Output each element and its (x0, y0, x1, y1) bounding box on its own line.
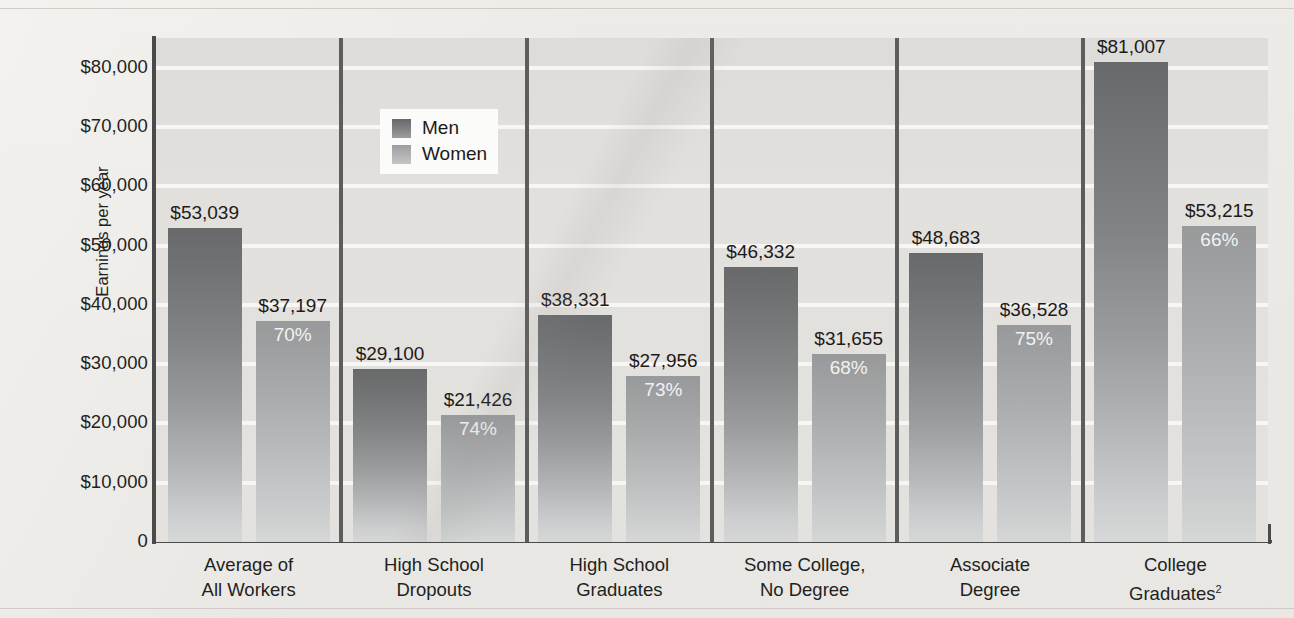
y-tick-label: $10,000 (80, 471, 148, 493)
group-separator (895, 38, 899, 542)
group-separator (710, 38, 714, 542)
bar-percent-label-women: 68% (812, 357, 886, 379)
x-category-label: High SchoolDropouts (341, 552, 526, 602)
x-category-label: Some College,No Degree (712, 552, 897, 602)
bar-men (909, 253, 983, 542)
bar-percent-label-women: 73% (626, 379, 700, 401)
legend-label-women: Women (422, 143, 487, 165)
bar-value-label-men: $53,039 (138, 202, 272, 224)
legend-swatch-men-icon (392, 119, 411, 138)
bar-value-label-women: $36,528 (967, 299, 1101, 321)
y-tick-label: $50,000 (80, 234, 148, 256)
chart-page: Earnings per year 0$10,000$20,000$30,000… (0, 0, 1294, 618)
bar-value-label-women: $27,956 (596, 350, 730, 372)
y-tick-label: 0 (138, 530, 148, 552)
legend-item-women[interactable]: Women (392, 141, 488, 167)
bar-value-label-men: $38,331 (508, 289, 642, 311)
y-tick-label: $30,000 (80, 352, 148, 374)
bar-value-label-men: $48,683 (879, 227, 1013, 249)
bar-men (538, 315, 612, 542)
group-separator (1081, 38, 1085, 542)
y-tick-label: $20,000 (80, 411, 148, 433)
bar-percent-label-women: 66% (1182, 229, 1256, 251)
y-tick-label: $80,000 (80, 56, 148, 78)
bar-value-label-women: $21,426 (411, 389, 545, 411)
page-bottom-rule (0, 608, 1294, 609)
bar-women (812, 354, 886, 542)
x-category-label: Average ofAll Workers (156, 552, 341, 602)
bar-value-label-men: $81,007 (1064, 36, 1198, 58)
bar-value-label-men: $29,100 (323, 343, 457, 365)
legend-swatch-women-icon (392, 145, 411, 164)
bar-percent-label-women: 70% (256, 324, 330, 346)
bar-value-label-women: $53,215 (1152, 200, 1286, 222)
y-tick-label: $40,000 (80, 293, 148, 315)
plot-area: $53,039$37,19770%$29,100$21,42674%$38,33… (156, 38, 1268, 542)
x-category-label: AssociateDegree (897, 552, 1082, 602)
x-category-label: High SchoolGraduates (527, 552, 712, 602)
legend-item-men[interactable]: Men (392, 115, 488, 141)
chart-legend: Men Women (380, 109, 498, 174)
footnote-marker: 2 (1215, 583, 1221, 595)
group-separator (339, 38, 343, 542)
bar-percent-label-women: 75% (997, 328, 1071, 350)
y-tick-label: $60,000 (80, 174, 148, 196)
bar-women (256, 321, 330, 542)
bar-value-label-women: $37,197 (226, 295, 360, 317)
bar-women (1182, 226, 1256, 542)
legend-label-men: Men (422, 117, 459, 139)
page-top-rule (0, 8, 1294, 9)
bar-percent-label-women: 74% (441, 418, 515, 440)
bar-men (168, 228, 242, 542)
bar-men (724, 267, 798, 542)
x-axis-end-tick (1268, 524, 1271, 544)
bar-value-label-women: $31,655 (782, 328, 916, 350)
x-category-label: CollegeGraduates2 (1083, 552, 1268, 606)
bar-value-label-men: $46,332 (694, 241, 828, 263)
bar-men (1094, 62, 1168, 542)
bar-women (997, 325, 1071, 542)
y-tick-label: $70,000 (80, 115, 148, 137)
